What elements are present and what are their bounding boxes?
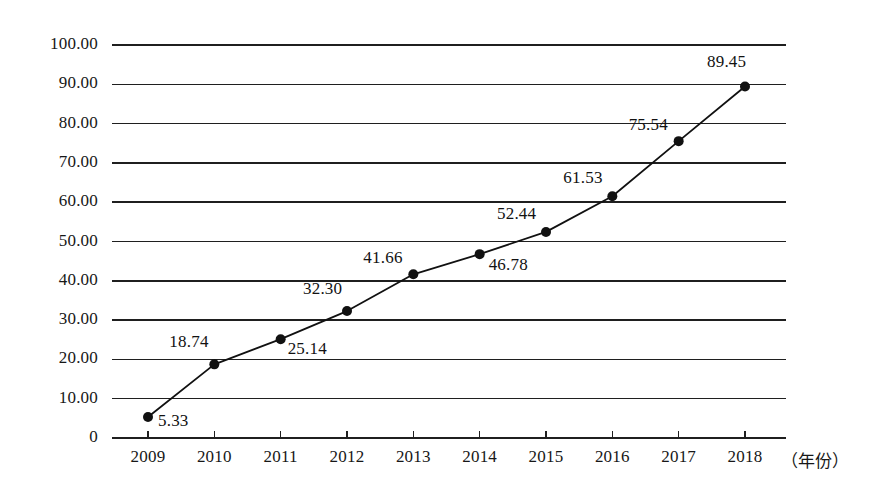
- y-tick-label: 70.00: [0, 152, 98, 172]
- data-point-label: 52.44: [497, 204, 536, 224]
- data-point-marker: [342, 306, 352, 316]
- x-tick-label: 2018: [705, 447, 785, 467]
- y-tick-label: 40.00: [0, 270, 98, 290]
- chart-plot-area: [0, 0, 884, 500]
- y-tick-label: 100.00: [0, 34, 98, 54]
- data-point-label: 5.33: [158, 411, 189, 431]
- y-tick-label: 50.00: [0, 231, 98, 251]
- x-axis: [148, 431, 745, 438]
- y-tick-label: 10.00: [0, 388, 98, 408]
- data-point-marker: [475, 249, 485, 259]
- data-point-label: 41.66: [363, 248, 402, 268]
- data-series-line: [148, 86, 745, 417]
- data-point-marker: [408, 269, 418, 279]
- data-point-marker: [541, 227, 551, 237]
- data-point-marker: [209, 359, 219, 369]
- data-point-label: 25.14: [288, 339, 327, 359]
- data-point-label: 46.78: [489, 255, 528, 275]
- series-line: [148, 86, 745, 417]
- y-tick-label: 60.00: [0, 191, 98, 211]
- data-point-marker: [674, 136, 684, 146]
- data-point-label: 18.74: [169, 332, 208, 352]
- data-point-label: 61.53: [563, 168, 602, 188]
- data-point-marker: [607, 191, 617, 201]
- data-point-label: 89.45: [707, 52, 746, 72]
- y-tick-label: 0: [0, 427, 98, 447]
- y-tick-label: 80.00: [0, 113, 98, 133]
- x-axis-title: （年份）: [781, 447, 849, 472]
- data-point-marker: [740, 81, 750, 91]
- y-tick-label: 90.00: [0, 73, 98, 93]
- line-chart: 100.0090.0080.0070.0060.0050.0040.0030.0…: [0, 0, 884, 500]
- y-tick-label: 30.00: [0, 309, 98, 329]
- data-point-label: 32.30: [303, 279, 342, 299]
- data-point-label: 75.54: [629, 115, 668, 135]
- gridlines: [112, 45, 786, 438]
- data-point-marker: [143, 412, 153, 422]
- data-point-marker: [276, 334, 286, 344]
- y-tick-label: 20.00: [0, 348, 98, 368]
